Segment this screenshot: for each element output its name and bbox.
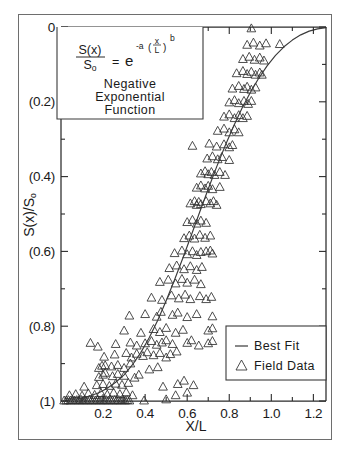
data-point-triangle: [249, 38, 258, 46]
data-point-triangle: [122, 349, 131, 357]
data-point-triangle: [204, 326, 213, 334]
equation-exponent-coefficient: -a: [136, 41, 144, 51]
data-point-triangle: [86, 338, 95, 346]
data-point-triangle: [275, 40, 284, 48]
data-point-triangle: [186, 262, 195, 270]
equation-annotation-box: S(x) So = e -a ( x L ) b Negative Expone…: [57, 27, 203, 119]
data-point-triangle: [192, 183, 201, 191]
data-point-triangle: [196, 169, 205, 177]
data-point-triangle: [220, 124, 229, 132]
y-axis-title: S(x)/So: [21, 193, 38, 237]
legend-label-field-data: Field Data: [254, 359, 315, 373]
data-point-triangle: [247, 24, 256, 32]
y-tick-label: (0.4): [29, 169, 55, 184]
data-point-triangle: [141, 310, 150, 318]
data-point-triangle: [262, 39, 271, 47]
data-point-triangle: [190, 275, 199, 283]
legend-label-best-fit: Best Fit: [254, 339, 300, 353]
y-tick-label: 0: [48, 20, 55, 35]
data-point-triangle: [111, 340, 120, 348]
data-point-triangle: [243, 82, 252, 90]
x-tick-label: 0.8: [220, 406, 238, 421]
data-point-triangle: [195, 292, 204, 300]
x-tick-label: 0.2: [94, 406, 112, 421]
data-point-triangle: [205, 139, 214, 147]
data-point-triangle: [189, 381, 198, 389]
data-point-triangle: [164, 275, 173, 283]
data-point-triangle: [170, 249, 179, 257]
data-point-triangle: [120, 326, 129, 334]
data-point-triangle: [183, 338, 192, 346]
data-point-triangle: [192, 310, 201, 318]
equation-equals: =: [112, 55, 119, 69]
chart-page: 0.20.40.60.81.01.20(0.2)(0.4)(0.6)(0.8)(…: [0, 0, 350, 453]
data-point-triangle: [100, 352, 109, 360]
y-tick-label: (0.2): [29, 94, 55, 109]
data-point-triangle: [122, 388, 131, 396]
data-point-triangle: [239, 67, 248, 75]
chart-legend: Best Fit Field Data: [226, 326, 326, 380]
y-tick-label: (1): [39, 394, 55, 409]
data-point-triangle: [147, 293, 156, 301]
data-point-triangle: [194, 341, 203, 349]
data-point-triangle: [188, 141, 197, 149]
data-point-triangle: [128, 391, 137, 399]
data-point-triangle: [186, 295, 195, 303]
data-point-triangle: [125, 311, 134, 319]
x-tick-label: 1.0: [262, 406, 280, 421]
equation-caption-line-2: Exponential: [95, 90, 165, 104]
data-point-triangle: [155, 349, 164, 357]
data-point-triangle: [228, 141, 237, 149]
data-point-triangle: [143, 348, 152, 356]
y-tick-label: (0.6): [29, 244, 55, 259]
data-point-triangle: [140, 396, 149, 404]
equation-caption-line-1: Negative: [104, 77, 157, 91]
data-point-triangle: [215, 182, 224, 190]
data-point-triangle: [204, 339, 213, 347]
equation-exponent-denominator: L: [155, 45, 160, 55]
data-point-triangle: [132, 341, 141, 349]
data-point-triangle: [173, 380, 182, 388]
data-point-triangle: [110, 350, 119, 358]
negative-exponential-chart: 0.20.40.60.81.01.20(0.2)(0.4)(0.6)(0.8)(…: [0, 0, 350, 453]
data-point-triangle: [165, 264, 174, 272]
equation-numerator: S(x): [79, 43, 102, 57]
data-point-triangle: [153, 363, 162, 371]
data-point-triangle: [172, 347, 181, 355]
data-point-triangle: [155, 277, 164, 285]
data-point-triangle: [159, 382, 168, 390]
data-point-triangle: [137, 328, 146, 336]
data-point-triangle: [126, 338, 135, 346]
y-tick-label: (0.8): [29, 319, 55, 334]
data-point-triangle: [145, 365, 154, 373]
equation-exponent-numerator: x: [155, 36, 160, 46]
data-point-triangle: [180, 376, 189, 384]
data-point-triangle: [80, 382, 89, 390]
equation-base: e: [125, 52, 133, 69]
x-axis-title: X/L: [185, 418, 206, 434]
data-point-triangle: [178, 274, 187, 282]
data-point-triangle: [162, 323, 171, 331]
equation-paren-close: ): [163, 42, 166, 53]
equation-exponent-power: b: [170, 33, 175, 43]
data-point-triangle: [179, 325, 188, 333]
data-point-triangle: [171, 391, 180, 399]
x-tick-label: 0.4: [136, 406, 155, 421]
x-tick-label: 1.2: [304, 406, 322, 421]
data-point-triangle: [183, 313, 192, 321]
data-point-triangle: [134, 370, 143, 378]
data-point-triangle: [208, 312, 217, 320]
equation-caption-line-3: Function: [104, 103, 155, 117]
data-point-triangle: [147, 337, 156, 345]
data-point-triangle: [181, 290, 190, 298]
